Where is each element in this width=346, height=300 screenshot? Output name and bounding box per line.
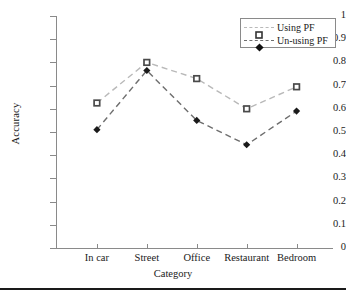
- chart-figure: 10.90.80.70.60.50.40.30.20.10 In carStre…: [0, 0, 346, 300]
- bottom-rule: [0, 288, 346, 290]
- legend-item-un-using-pf[interactable]: Un-using PF: [244, 34, 332, 47]
- data-point-diamond: [243, 141, 250, 148]
- data-point-square: [244, 106, 250, 112]
- legend-swatch-diamond-icon: [244, 35, 274, 46]
- legend-label-using-pf: Using PF: [274, 22, 315, 33]
- legend-item-using-pf[interactable]: Using PF: [244, 21, 332, 34]
- legend: Using PF Un-using PF: [240, 18, 336, 48]
- data-point-square: [294, 84, 300, 90]
- data-point-square: [144, 60, 150, 66]
- data-point-square: [94, 100, 100, 106]
- data-point-square: [194, 76, 200, 82]
- legend-swatch-square-icon: [244, 22, 274, 33]
- legend-label-un-using-pf: Un-using PF: [274, 35, 328, 46]
- series-line-using-pf: [97, 62, 297, 108]
